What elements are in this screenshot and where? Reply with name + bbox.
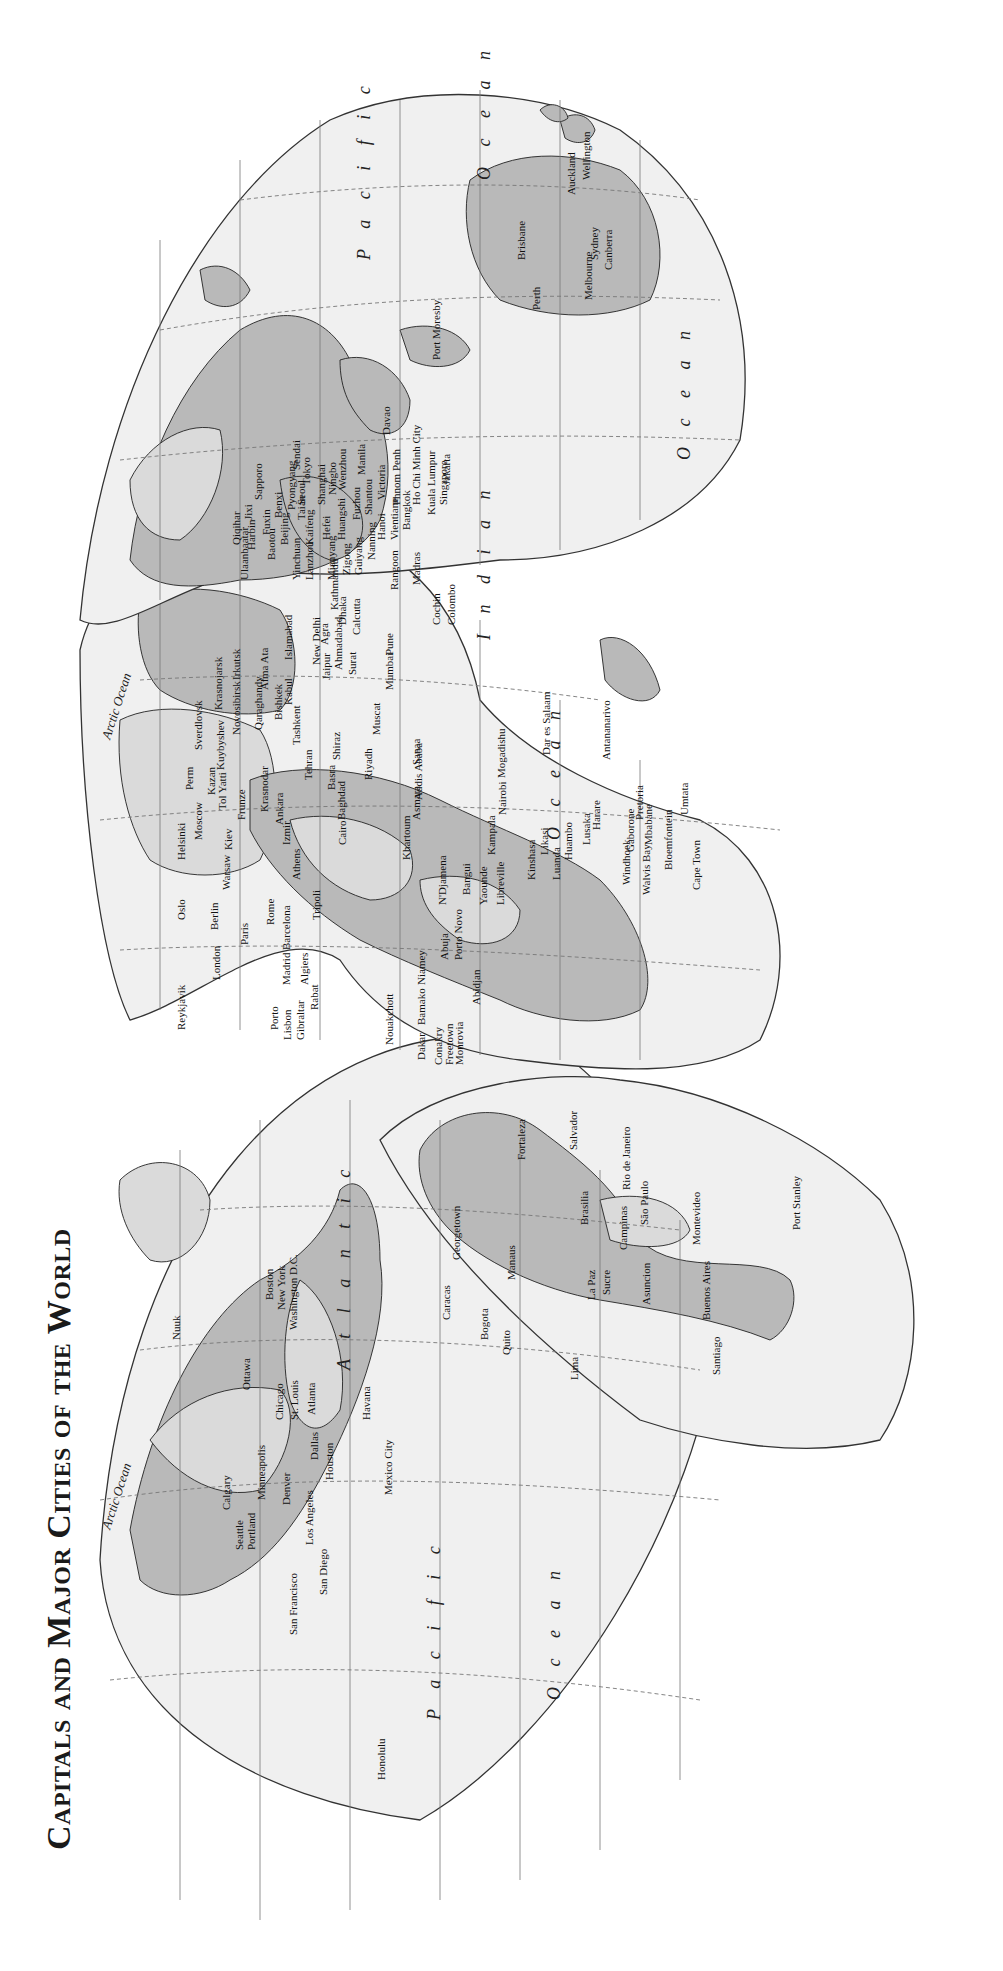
city-label: Paris xyxy=(238,923,250,945)
city-label: Algiers xyxy=(298,953,310,985)
city-label: Porto Novo xyxy=(452,908,464,960)
city-label: Tripoli xyxy=(310,890,322,920)
city-label: Shiraz xyxy=(330,732,342,760)
city-label: Agra xyxy=(318,623,330,645)
city-label: Jakarta xyxy=(440,454,452,485)
city-label: Ottawa xyxy=(240,1358,252,1390)
city-label: Santiago xyxy=(710,1336,722,1375)
city-label: Dhaka xyxy=(336,596,348,625)
pacific-west-ocean-label: O c e a n xyxy=(544,1563,564,1700)
city-label: Niamey xyxy=(415,950,427,985)
city-label: Qiqihar xyxy=(230,511,242,545)
city-label: Tokyo xyxy=(300,457,312,485)
city-label: Rangoon xyxy=(388,550,400,590)
city-label: Kampala xyxy=(485,815,497,855)
city-label: Mexico City xyxy=(382,1439,394,1495)
city-label: Perth xyxy=(530,286,542,310)
city-label: Nuuk xyxy=(170,1315,182,1340)
city-label: Warsaw xyxy=(220,855,232,890)
city-label: Bangui xyxy=(460,863,472,895)
city-label: Salvador xyxy=(567,1111,579,1150)
city-label: Harare xyxy=(590,800,602,830)
city-label: Los Angeles xyxy=(303,1490,315,1545)
city-label: Phnom Penh xyxy=(390,449,402,505)
city-label: Khartoum xyxy=(400,815,412,860)
pacific-east-label: P a c i f i c xyxy=(354,78,374,261)
city-label: N'Djamena xyxy=(436,855,448,905)
city-label: Mbabane xyxy=(642,804,654,845)
city-label: Berlin xyxy=(208,902,220,930)
city-label: Bamako xyxy=(415,988,427,1025)
city-label: Ankara xyxy=(273,793,285,825)
city-label: Canberra xyxy=(602,230,614,270)
world-map: Arctic Ocean Arctic Ocean A t l a n t i … xyxy=(0,0,1003,1971)
city-label: Fortaleza xyxy=(515,1119,527,1160)
city-label: Montevideo xyxy=(690,1191,702,1245)
city-label: Zigong xyxy=(340,543,352,575)
city-label: Yinchuan xyxy=(290,537,302,580)
city-label: Tol Yatti xyxy=(216,772,228,810)
city-label: Porto xyxy=(268,1006,280,1030)
city-label: Benxi xyxy=(272,492,284,518)
city-label: Huangshi xyxy=(335,498,347,540)
city-label: Brasilia xyxy=(578,1191,590,1225)
city-label: Umtata xyxy=(678,783,690,815)
city-label: Quito xyxy=(500,1329,512,1355)
city-label: Libreville xyxy=(494,862,506,905)
city-label: Riyadh xyxy=(362,748,374,780)
city-label: Dallas xyxy=(308,1432,320,1460)
city-label: Victoria xyxy=(375,465,387,500)
city-label: Georgetown xyxy=(450,1205,462,1260)
city-label: Port Moresby xyxy=(430,299,442,360)
city-label: São Paulo xyxy=(638,1180,650,1225)
city-label: Fuzhou xyxy=(350,487,362,521)
city-label: Krasnojarsk xyxy=(212,656,224,710)
city-label: Kiev xyxy=(222,828,234,850)
city-label: Oslo xyxy=(175,899,187,920)
city-label: Frunze xyxy=(235,789,247,820)
city-label: La Paz xyxy=(585,1270,597,1300)
city-label: Monrovia xyxy=(453,1022,465,1066)
city-label: Lisbon xyxy=(281,1009,293,1040)
city-label: Calcutta xyxy=(350,598,362,635)
city-label: Nouakchott xyxy=(383,994,395,1045)
city-label: Luanda xyxy=(550,847,562,880)
city-label: Madras xyxy=(410,552,422,585)
city-label: Muscat xyxy=(370,703,382,735)
city-label: Tehran xyxy=(302,749,314,780)
city-label: Bloemfontein xyxy=(662,809,674,870)
city-label: Taian xyxy=(295,495,307,520)
city-label: Bogota xyxy=(478,1308,490,1340)
city-label: Dar es Salaam xyxy=(540,691,552,755)
city-label: Melbourne xyxy=(582,252,594,300)
city-label: Kabul xyxy=(282,678,294,705)
city-label: Sucre xyxy=(600,1270,612,1295)
city-label: Calgary xyxy=(220,1475,232,1510)
city-label: Kuala Lumpur xyxy=(425,450,437,515)
city-label: St. Louis xyxy=(288,1380,300,1420)
city-label: Reykjavik xyxy=(175,984,187,1030)
pacific-east-ocean-label: O c e a n xyxy=(474,43,494,180)
city-label: Pune xyxy=(383,633,395,655)
city-label: Barcelona xyxy=(280,905,292,950)
city-label: Chicago xyxy=(273,1383,285,1420)
city-label: Wellington xyxy=(580,131,592,180)
city-label: Manaus xyxy=(505,1245,517,1280)
city-label: Yaounde xyxy=(477,866,489,905)
city-label: Lanzhou xyxy=(303,541,315,580)
city-label: New York xyxy=(275,1265,287,1310)
city-label: Abidjan xyxy=(470,969,482,1005)
city-label: Seattle xyxy=(233,1520,245,1550)
city-label: Davao xyxy=(380,406,392,435)
city-label: Sanaa xyxy=(410,739,422,765)
city-label: Sapporo xyxy=(252,463,264,500)
city-label: Rio de Janeiro xyxy=(620,1126,632,1190)
city-label: Jaipur xyxy=(320,653,332,680)
city-label: Houston xyxy=(323,1442,335,1480)
city-label: Madrid xyxy=(280,952,292,985)
city-label: Baotou xyxy=(265,528,277,560)
city-label: Surat xyxy=(346,652,358,675)
city-label: Qaraghandy xyxy=(252,676,264,730)
city-label: Colombo xyxy=(445,584,457,625)
city-label: Mianyang xyxy=(325,535,337,580)
